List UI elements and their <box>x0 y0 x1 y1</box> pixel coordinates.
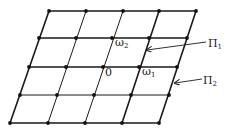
pi2-label: Π2 <box>203 74 217 88</box>
lattice-point <box>147 36 151 40</box>
lattice-point <box>137 65 141 69</box>
lattice-point <box>84 9 88 13</box>
lattice-point <box>120 121 124 125</box>
lattice-point <box>74 36 78 40</box>
pi2-arrow <box>175 79 202 83</box>
lattice-point <box>8 121 12 125</box>
lattice-point <box>157 121 161 125</box>
lattice-point <box>37 36 41 40</box>
pi1-label: Π1 <box>208 37 222 51</box>
lattice-point <box>175 65 179 69</box>
lattice-point <box>110 36 114 40</box>
lattice-diagram: Π1 Π2 0 ω1 ω2 <box>0 0 231 133</box>
lattice-point <box>194 9 198 13</box>
lattice-point <box>47 9 51 13</box>
lattice-point <box>55 93 59 97</box>
lattice-point <box>157 9 161 13</box>
lattice-point <box>46 121 50 125</box>
lattice-point <box>18 93 22 97</box>
lattice-point <box>83 121 87 125</box>
pi2-annotation: Π2 <box>175 74 217 88</box>
lattice-point <box>64 65 68 69</box>
pi1-arrow <box>147 42 206 50</box>
lattice-point <box>185 36 189 40</box>
origin-label: 0 <box>105 66 112 79</box>
lattice-point <box>129 93 133 97</box>
lattice-point <box>167 93 171 97</box>
lattice-point <box>92 93 96 97</box>
lattice-point <box>121 9 125 13</box>
lattice-point <box>27 65 31 69</box>
